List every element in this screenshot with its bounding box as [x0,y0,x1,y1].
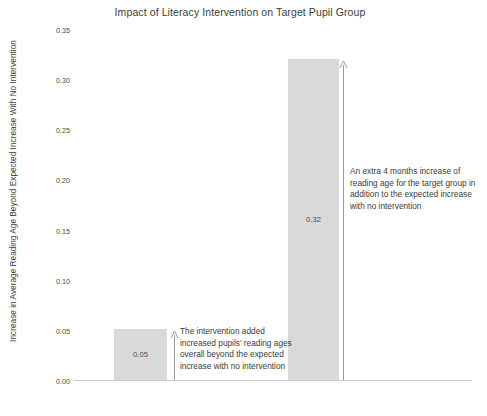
bar-value-all-pupils: 0.05 [114,350,167,359]
y-tick-label: 0.20 [34,176,70,185]
literacy-intervention-bar-chart: Impact of Literacy Intervention on Targe… [0,0,487,416]
y-tick-label: 0.35 [34,26,70,35]
bar-value-ci: 0.32 [288,215,339,224]
y-tick-label: 0.30 [34,76,70,85]
y-axis-title-container: Increase in Average Reading Age Beyond E… [0,0,26,382]
bar-all-pupils: 0.05 [114,329,167,380]
annotation-ci: An extra 4 months increase of reading ag… [350,166,484,212]
chart-title: Impact of Literacy Intervention on Targe… [60,6,420,18]
annotation-all-pupils: The intervention added increased pupils’… [180,326,298,372]
y-tick-label: 0.10 [34,277,70,286]
up-arrow-all-pupils [170,329,179,380]
y-axis-tick-labels: 0.35 0.30 0.25 0.20 0.15 0.10 0.05 0.00 [26,0,70,416]
y-tick-label: 0.25 [34,126,70,135]
y-tick-label: 0.05 [34,327,70,336]
x-axis-baseline [74,380,472,381]
y-tick-label: 0.00 [34,377,70,386]
y-axis-title: Increase in Average Reading Age Beyond E… [9,40,18,342]
up-arrow-ci [339,59,348,380]
y-tick-label: 0.15 [34,227,70,236]
